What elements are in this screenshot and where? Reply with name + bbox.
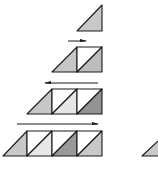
diagram-rows [3,5,102,156]
partial-triangle [142,139,158,156]
arrow-right-icon [17,122,99,125]
lead-triangle [77,5,102,31]
row-2 [52,39,102,72]
square-3 [77,131,102,156]
lead-triangle [52,47,77,72]
partial-triangle-group [142,139,158,156]
row-4 [3,122,102,156]
row-1 [77,5,102,31]
triangle-staircase-diagram [0,0,158,169]
square-1 [27,131,52,156]
square-2 [52,131,77,156]
square-1 [77,47,102,72]
row-3 [27,81,102,114]
square-2 [77,89,102,114]
lead-triangle [27,89,52,114]
square-1 [52,89,77,114]
arrow-left-icon [44,81,98,84]
lead-triangle [3,131,27,156]
arrow-right-icon [68,39,87,42]
